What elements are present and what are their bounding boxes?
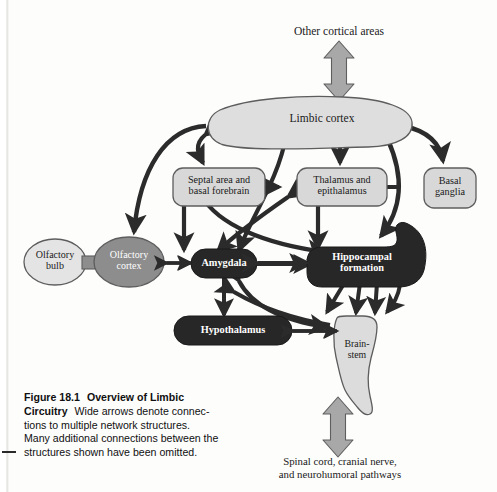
caption-body-1: Wide arrows denote connec-	[75, 405, 210, 417]
spinal-cord-label-line1: Spinal cord, cranial nerve,	[255, 455, 425, 468]
edge-hippocampus-brainstem-4	[387, 285, 400, 312]
caption-figure-number: Figure 18.1	[24, 391, 80, 403]
node-amygdala	[191, 249, 257, 278]
node-basal-ganglia	[424, 168, 476, 208]
limbic-cortex-body	[208, 96, 412, 149]
node-hypothalamus	[174, 316, 292, 345]
node-hippocampal-formation	[307, 222, 426, 287]
caption-figure-title-1: Overview of Limbic	[87, 391, 184, 403]
edge-limbic-septal	[198, 135, 205, 163]
caption-body-2: tions to multiple network structures.	[24, 419, 190, 431]
caption-body-3: Many additional connections between the	[24, 432, 218, 444]
node-olfactory-cortex	[94, 237, 164, 287]
figure-page: Other cortical areas Spinal cord, crania…	[0, 0, 497, 492]
caption-body-4: structures shown have been omitted.	[24, 446, 197, 458]
caption-figure-title-2: Circuitry	[24, 405, 68, 417]
node-septal-area	[173, 168, 265, 206]
top-wide-arrow	[324, 41, 354, 101]
bottom-wide-arrow	[323, 397, 353, 457]
other-cortical-areas-label: Other cortical areas	[259, 25, 419, 39]
figure-caption: Figure 18.1Overview of Limbic CircuitryW…	[24, 391, 272, 460]
spinal-cord-label-line2: and neurohumoral pathways	[251, 468, 429, 481]
node-olfactory-bulb	[24, 239, 86, 285]
node-thalamus	[297, 168, 387, 206]
